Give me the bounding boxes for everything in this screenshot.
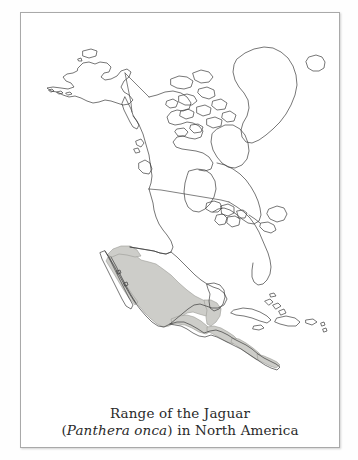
us-canada-border [149,189,229,202]
greenland-outline [233,47,297,143]
species-name: Panthera onca [67,422,168,438]
us-west-coast [130,189,173,254]
hudson-bay [184,169,216,212]
caption-line-2: (Panthera onca) in North America [21,422,339,439]
north-america-map [21,13,339,373]
figure-caption: Range of the Jaguar (Panthera onca) in N… [21,405,339,439]
alaska-outline [47,62,133,105]
iceland-outline [306,55,325,71]
map-area [21,13,339,373]
figure-frame: Range of the Jaguar (Panthera onca) in N… [20,12,340,448]
alaska-border-diagonal [125,73,149,97]
great-lakes [206,201,222,212]
caption-region-text: in North America [173,422,299,438]
baffin-island [211,125,249,168]
eastern-canada-coast [213,163,261,224]
us-east-coast [229,202,271,285]
caption-line-1: Range of the Jaguar [21,405,339,422]
cuba-outline [231,308,271,323]
